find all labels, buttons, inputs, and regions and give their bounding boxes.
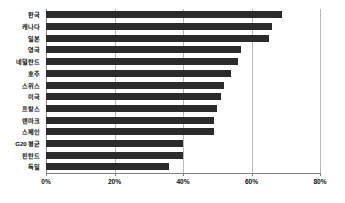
- bar-row: [46, 79, 320, 91]
- x-tick-80%: [320, 173, 321, 176]
- bar: [46, 70, 231, 77]
- category-label: 독일: [0, 161, 43, 173]
- bar: [46, 35, 269, 42]
- bar: [46, 128, 214, 135]
- bar: [46, 140, 183, 147]
- bar: [46, 58, 238, 65]
- plot-area: [46, 9, 320, 173]
- bar: [46, 23, 272, 30]
- category-label: 스페인: [0, 126, 43, 138]
- x-tick-label: 20%: [108, 178, 121, 185]
- bar-row: [46, 138, 320, 150]
- bar-row: [46, 44, 320, 56]
- category-label: 일본: [0, 32, 43, 44]
- category-label: 미국: [0, 91, 43, 103]
- gridline-80%: [320, 9, 321, 173]
- bar-row: [46, 56, 320, 68]
- x-tick-label: 40%: [176, 178, 189, 185]
- category-label: 프랑스: [0, 103, 43, 115]
- bar: [46, 93, 221, 100]
- bar: [46, 117, 214, 124]
- bar: [46, 105, 217, 112]
- category-axis-labels: 한국캐나다일본영국네덜란드호주스위스미국프랑스덴마크스페인G20 평균핀란드독일: [0, 9, 43, 173]
- x-tick-label: 0%: [41, 178, 51, 185]
- bar-chart: 한국캐나다일본영국네덜란드호주스위스미국프랑스덴마크스페인G20 평균핀란드독일…: [0, 0, 345, 203]
- x-tick-0%: [46, 173, 47, 176]
- category-label: 한국: [0, 9, 43, 21]
- x-tick-60%: [252, 173, 253, 176]
- category-label: G20 평균: [0, 138, 43, 150]
- bar-row: [46, 68, 320, 80]
- bar-row: [46, 126, 320, 138]
- bar: [46, 152, 183, 159]
- bar-row: [46, 32, 320, 44]
- category-label: 캐나다: [0, 21, 43, 33]
- bar-row: [46, 21, 320, 33]
- category-label: 덴마크: [0, 114, 43, 126]
- bar-row: [46, 114, 320, 126]
- category-label: 네덜란드: [0, 56, 43, 68]
- bar-series: [46, 9, 320, 173]
- bar-row: [46, 161, 320, 173]
- bar: [46, 82, 224, 89]
- x-tick-label: 60%: [245, 178, 258, 185]
- x-tick-40%: [183, 173, 184, 176]
- x-tick-label: 80%: [313, 178, 326, 185]
- bar: [46, 11, 282, 18]
- category-label: 스위스: [0, 79, 43, 91]
- bar: [46, 163, 169, 170]
- bar-row: [46, 103, 320, 115]
- category-label: 핀란드: [0, 149, 43, 161]
- bar-row: [46, 91, 320, 103]
- bar-row: [46, 9, 320, 21]
- category-label: 영국: [0, 44, 43, 56]
- bar-row: [46, 149, 320, 161]
- x-tick-20%: [115, 173, 116, 176]
- category-label: 호주: [0, 68, 43, 80]
- bar: [46, 46, 241, 53]
